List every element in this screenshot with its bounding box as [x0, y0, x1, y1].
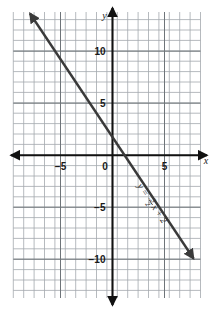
coordinate-plane-figure: y x −5 0 5 10 5 −5 −10 y = − 3 2 x + 2 [0, 0, 221, 315]
x-tick-label-neg5: −5 [55, 161, 67, 172]
y-tick-label-neg5: −5 [94, 202, 106, 213]
y-axis-label: y [101, 10, 107, 21]
figure-background [0, 0, 221, 315]
y-tick-label-5: 5 [100, 98, 106, 109]
x-tick-label-5: 5 [162, 161, 168, 172]
y-tick-label-10: 10 [94, 46, 106, 57]
x-axis-label: x [203, 155, 209, 166]
y-tick-label-neg10: −10 [89, 254, 106, 265]
origin-label: 0 [102, 161, 108, 172]
